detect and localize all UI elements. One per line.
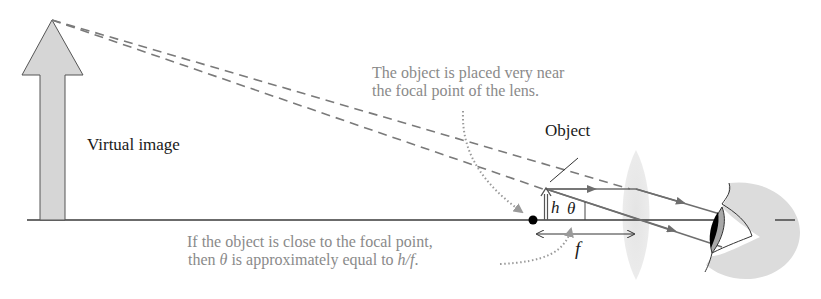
- virtual-image-label: Virtual image: [87, 136, 180, 155]
- object-leader-line: [550, 158, 578, 182]
- dashed-ray-upper: [52, 20, 630, 189]
- bottom-callout-line1: If the object is close to the focal poin…: [187, 233, 433, 251]
- f-label: f: [575, 239, 580, 260]
- top-callout-text: The object is placed very near the focal…: [372, 64, 564, 99]
- virtual-image-arrow: [22, 20, 83, 220]
- bottom-callout-line2: then θ is approximately equal to h/f.: [187, 251, 433, 269]
- magnifier-diagram: Virtual image Object h θ f The object is…: [0, 0, 821, 299]
- h-label: h: [551, 199, 560, 218]
- bottom-callout-suffix: .: [414, 251, 418, 268]
- object-arrow: [541, 188, 551, 220]
- bottom-callout-text: If the object is close to the focal poin…: [187, 233, 433, 268]
- object-label: Object: [545, 122, 590, 141]
- bottom-callout-mid: is approximately equal to: [227, 251, 397, 268]
- top-callout-line2: the focal point of the lens.: [372, 82, 564, 100]
- focal-point: [529, 216, 538, 225]
- theta-label: θ: [567, 200, 575, 219]
- top-callout-leader: [463, 111, 522, 212]
- bottom-callout-ratio: h/f: [398, 251, 415, 268]
- bottom-callout-prefix: then: [188, 251, 220, 268]
- top-callout-line1: The object is placed very near: [372, 64, 564, 82]
- dashed-ray-lower: [52, 20, 546, 190]
